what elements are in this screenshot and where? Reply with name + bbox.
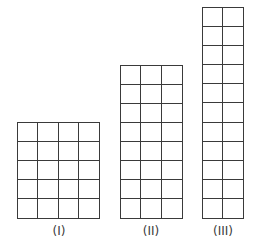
grid-cell: [203, 180, 223, 199]
grid-cell: [223, 161, 243, 180]
grid-cell: [121, 104, 141, 123]
grid-cell: [121, 161, 141, 180]
grid-cell: [59, 142, 79, 161]
grid-cell: [203, 8, 223, 27]
grid-cell: [18, 123, 38, 142]
grid-cell: [203, 123, 223, 142]
grid-cell: [141, 161, 161, 180]
grid-cell: [121, 66, 141, 85]
grid-cell: [162, 85, 182, 104]
grid-cell: [141, 123, 161, 142]
grid-cell: [223, 142, 243, 161]
grid-cell: [223, 27, 243, 46]
grid-cell: [162, 199, 182, 218]
grid-cell: [203, 27, 223, 46]
grid-cell: [162, 161, 182, 180]
grid-cell: [141, 66, 161, 85]
grid-cell: [59, 161, 79, 180]
grid-cell: [79, 180, 99, 199]
grid-figure-I: [17, 122, 100, 219]
grid-cell: [223, 65, 243, 84]
grid-cell: [38, 180, 58, 199]
grid-cell: [162, 123, 182, 142]
grid-cell: [223, 8, 243, 27]
grid-cell: [18, 180, 38, 199]
grid-cell: [203, 46, 223, 65]
grid-cell: [59, 180, 79, 199]
grid-cell: [203, 142, 223, 161]
figure-label-III: (III): [203, 224, 243, 238]
grid-cell: [18, 161, 38, 180]
grid-cell: [223, 84, 243, 103]
grid-cell: [79, 142, 99, 161]
grid-cell: [79, 199, 99, 218]
grid-cell: [223, 180, 243, 199]
grid-cell: [223, 46, 243, 65]
grid-cell: [162, 142, 182, 161]
grid-cell: [141, 104, 161, 123]
grid-cell: [38, 123, 58, 142]
grid-cell: [141, 142, 161, 161]
grid-cell: [121, 85, 141, 104]
grid-cell: [79, 123, 99, 142]
grid-cell: [223, 199, 243, 218]
grid-cell: [223, 123, 243, 142]
grid-cell: [18, 199, 38, 218]
grid-cell: [223, 103, 243, 122]
grid-cell: [162, 180, 182, 199]
grid-cell: [141, 180, 161, 199]
grid-cell: [203, 103, 223, 122]
grid-cell: [121, 123, 141, 142]
figure-label-I: (I): [39, 224, 79, 238]
grid-cell: [38, 161, 58, 180]
grid-cell: [121, 142, 141, 161]
grid-cell: [203, 84, 223, 103]
grid-cell: [141, 85, 161, 104]
grid-figure-II: [120, 65, 183, 219]
figure-label-II: (II): [131, 224, 171, 238]
grid-cell: [162, 66, 182, 85]
grid-cell: [141, 199, 161, 218]
grid-cell: [203, 161, 223, 180]
grid-cell: [121, 199, 141, 218]
grid-cell: [203, 65, 223, 84]
grid-cell: [38, 142, 58, 161]
grid-cell: [59, 199, 79, 218]
grid-cell: [59, 123, 79, 142]
grid-cell: [79, 161, 99, 180]
grid-cell: [38, 199, 58, 218]
grid-cell: [162, 104, 182, 123]
grid-cell: [203, 199, 223, 218]
grid-figure-III: [202, 7, 244, 219]
grid-cell: [18, 142, 38, 161]
grid-cell: [121, 180, 141, 199]
